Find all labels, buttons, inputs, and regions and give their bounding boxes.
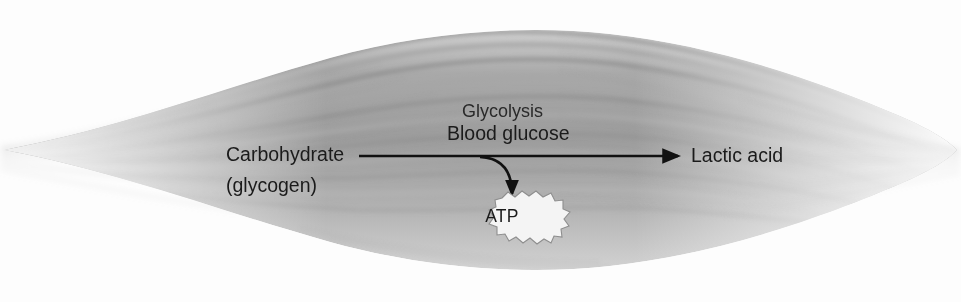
label-lactic-acid: Lactic acid: [691, 145, 783, 165]
pathway-diagram-overlay: [0, 0, 961, 302]
label-glycolysis: Glycolysis: [462, 102, 543, 121]
label-atp: ATP: [471, 206, 533, 227]
label-carbohydrate: Carbohydrate: [226, 144, 344, 164]
arrow-branch-to-atp: [480, 157, 512, 194]
figure-canvas: Carbohydrate (glycogen) Glycolysis Blood…: [0, 0, 961, 302]
label-blood-glucose: Blood glucose: [447, 123, 570, 143]
label-glycogen: (glycogen): [226, 175, 317, 195]
